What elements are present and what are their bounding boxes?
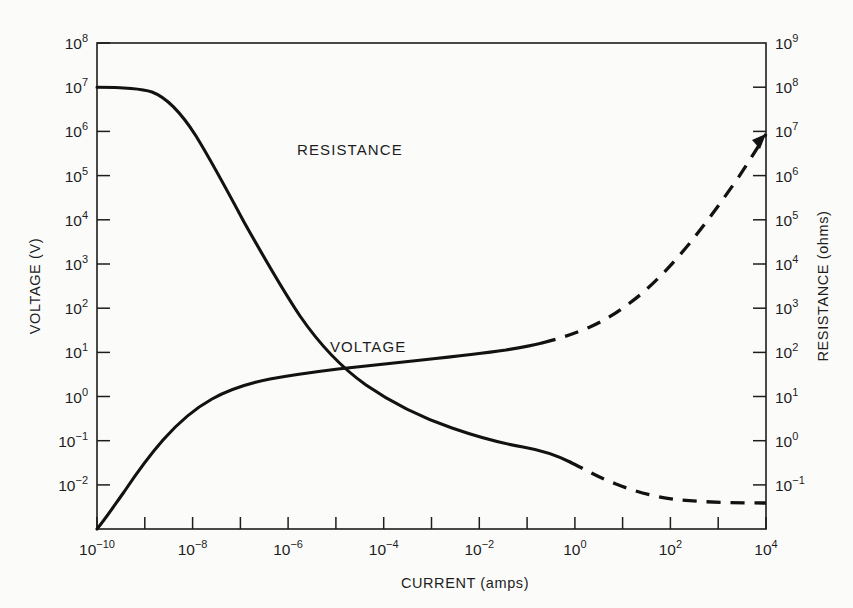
x-tick-label: 10−10 <box>79 538 115 558</box>
y-left-axis-tick-labels: 108 107 106 105 104 103 102 101 100 10−1… <box>58 32 88 494</box>
x-tick-label: 100 <box>563 538 586 558</box>
y-left-tick-label: 10−2 <box>58 474 88 494</box>
y-right-tick-label: 109 <box>775 32 798 52</box>
y-left-tick-label: 104 <box>65 209 88 229</box>
y-left-tick-label: 10−1 <box>58 430 88 450</box>
y-right-tick-label: 100 <box>775 430 798 450</box>
y-left-tick-label: 103 <box>65 253 88 273</box>
y-left-axis-ticks <box>97 43 110 485</box>
x-tick-label: 10−6 <box>273 538 303 558</box>
y-right-tick-label: 108 <box>775 76 798 96</box>
x-tick-label: 10−4 <box>369 538 399 558</box>
y-left-tick-label: 108 <box>65 32 88 52</box>
figure-canvas: 10−10 10−8 10−6 10−4 10−2 100 102 104 <box>0 0 853 608</box>
y-right-tick-label: 10−1 <box>775 474 805 494</box>
y-right-tick-label: 107 <box>775 120 798 140</box>
y-right-tick-label: 104 <box>775 253 798 273</box>
x-tick-label: 104 <box>754 538 777 558</box>
x-axis-tick-labels: 10−10 10−8 10−6 10−4 10−2 100 102 104 <box>79 538 778 558</box>
y-right-tick-label: 103 <box>775 297 798 317</box>
y-right-tick-label: 106 <box>775 165 798 185</box>
y-right-axis-title: RESISTANCE (ohms) <box>815 211 831 362</box>
x-axis-title: CURRENT (amps) <box>401 575 529 591</box>
y-left-tick-label: 107 <box>65 76 88 96</box>
voltage-curve-arrowhead <box>752 134 766 149</box>
resistance-curve-dashed <box>570 462 766 503</box>
y-left-tick-label: 106 <box>65 120 88 140</box>
voltage-curve-label: VOLTAGE <box>330 338 406 355</box>
y-left-tick-label: 100 <box>65 386 88 406</box>
x-axis-ticks <box>97 517 766 529</box>
log-log-chart: 10−10 10−8 10−6 10−4 10−2 100 102 104 <box>0 0 853 608</box>
x-tick-label: 10−8 <box>178 538 208 558</box>
y-right-tick-label: 105 <box>775 209 798 229</box>
x-tick-label: 102 <box>659 538 682 558</box>
plot-frame <box>97 43 766 529</box>
y-right-tick-label: 102 <box>775 341 798 361</box>
y-left-axis-title: VOLTAGE (V) <box>27 238 43 334</box>
x-tick-label: 10−2 <box>464 538 494 558</box>
voltage-curve-dashed <box>542 134 766 343</box>
y-left-tick-label: 105 <box>65 165 88 185</box>
y-right-tick-label: 101 <box>775 386 798 406</box>
y-right-axis-tick-labels: 109 108 107 106 105 104 103 102 101 100 … <box>775 32 805 494</box>
y-left-tick-label: 102 <box>65 297 88 317</box>
resistance-curve-label: RESISTANCE <box>297 141 403 158</box>
y-left-tick-label: 101 <box>65 341 88 361</box>
